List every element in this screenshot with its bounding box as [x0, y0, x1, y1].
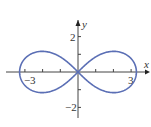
lemniscate-plot: x y −332−2 [0, 0, 151, 127]
x-axis-label: x [143, 58, 149, 70]
x-tick-label: 3 [128, 74, 134, 86]
y-tick-label: 2 [70, 31, 76, 43]
axes: x y [6, 18, 150, 118]
y-tick-label: −2 [65, 101, 77, 113]
y-axis-arrow-icon [76, 20, 81, 26]
x-axis-arrow-icon [145, 70, 150, 75]
x-tick-label: −3 [24, 74, 36, 86]
y-axis-label: y [81, 18, 87, 30]
